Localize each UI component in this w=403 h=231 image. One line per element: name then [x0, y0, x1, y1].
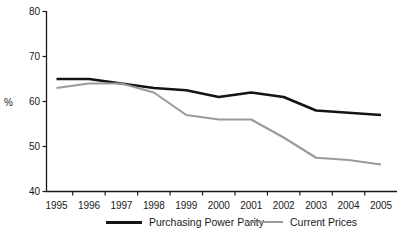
x-tick-label: 1995: [42, 201, 72, 211]
x-tick-label: 1997: [106, 201, 136, 211]
x-tick-label: 2002: [269, 201, 299, 211]
x-tick-label: 2000: [204, 201, 234, 211]
x-tick-label: 1999: [171, 201, 201, 211]
chart-plot-area: [0, 0, 403, 231]
legend-item-current-prices: Current Prices: [247, 216, 357, 228]
legend-swatch-purchasing-power-parity: [106, 221, 142, 224]
y-axis-label: %: [4, 98, 13, 108]
x-tick-label: 1996: [74, 201, 104, 211]
line-chart-figure: 4050607080 19951996199719981999200020012…: [0, 0, 403, 231]
y-tick-label: 80: [18, 7, 40, 17]
y-tick-label: 50: [18, 142, 40, 152]
x-tick-label: 2004: [334, 201, 364, 211]
legend-swatch-current-prices: [247, 221, 283, 224]
x-tick-label: 1998: [139, 201, 169, 211]
y-tick-label: 70: [18, 52, 40, 62]
y-tick-label: 40: [18, 187, 40, 197]
x-tick-label: 2005: [366, 201, 396, 211]
series-line-current-prices: [57, 84, 382, 165]
legend-label-current-prices: Current Prices: [290, 216, 357, 228]
x-tick-label: 2001: [236, 201, 266, 211]
data-series-paths: [57, 79, 382, 165]
x-tick-label: 2003: [301, 201, 331, 211]
legend-item-purchasing-power-parity: Purchasing Power Parity: [106, 216, 264, 228]
axis-lines: [46, 11, 397, 192]
y-tick-label: 60: [18, 97, 40, 107]
